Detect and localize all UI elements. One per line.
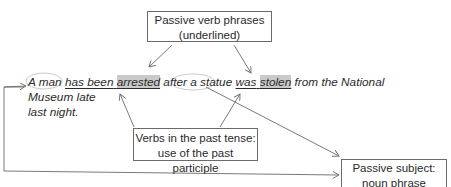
verb2-aux: was (236, 75, 257, 89)
verb1-aux: has been (65, 75, 114, 89)
verb-phrase-1: has been arrested (65, 75, 160, 89)
subject-a-man: A man (28, 75, 62, 89)
connector-text: after a (163, 75, 196, 89)
box-right-line1: Passive subject: (342, 161, 446, 176)
passive-subject-box: Passive subject: noun phrase (341, 159, 447, 187)
verb2-participle: stolen (260, 75, 291, 89)
box-mid-line1: Verbs in the past tense: (134, 131, 257, 146)
past-participle-box: Verbs in the past tense: use of the past… (133, 128, 258, 161)
box-mid-line2: use of the past participle (134, 146, 257, 176)
sentence-line2: last night. (28, 105, 79, 119)
verb-phrase-2: was stolen (236, 75, 292, 89)
example-sentence: A man has been arrested after a statue w… (28, 75, 428, 120)
passive-verb-phrases-box: Passive verb phrases (underlined) (147, 11, 272, 42)
subject-statue: statue (200, 75, 232, 89)
box-top-line1: Passive verb phrases (148, 13, 271, 28)
box-top-line2: (underlined) (148, 28, 271, 43)
box-right-line2: noun phrase (342, 176, 446, 187)
verb1-participle: arrested (117, 75, 160, 89)
